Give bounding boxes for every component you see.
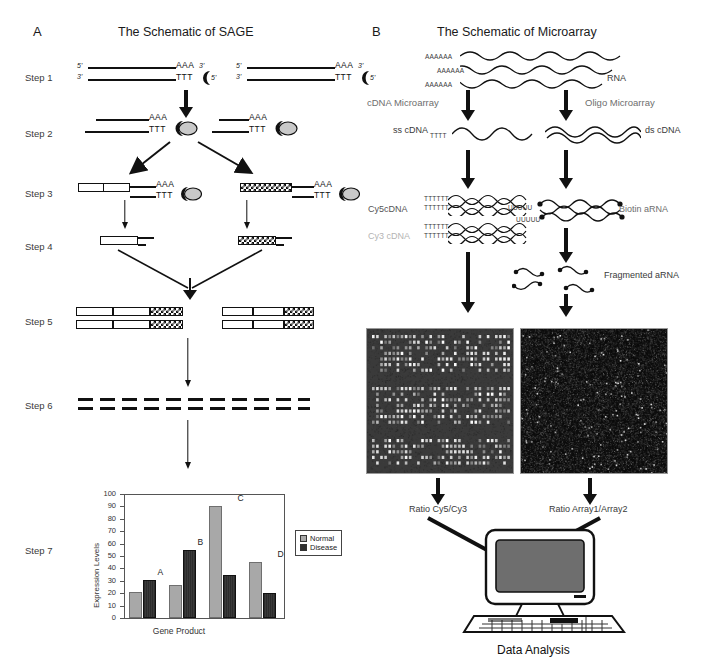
- arrow-step5-to-step6: [180, 338, 196, 390]
- step1-right-polyA: AAA: [335, 60, 353, 70]
- chart-y-tick-label: 80: [100, 515, 116, 523]
- step3-right-polyT: TTT: [314, 190, 331, 200]
- step-6-label: Step 6: [25, 400, 52, 411]
- chart-y-tick-label: 70: [100, 527, 116, 535]
- step3-left-tagbox-divider: [103, 183, 104, 192]
- ds-cdna-strand-icon: [545, 118, 641, 144]
- chart-y-tick: [120, 606, 124, 607]
- step1-left-5prime-top: 5': [77, 62, 82, 69]
- expression-bar-chart: Expression Levels 0102030405060708090100…: [84, 486, 344, 636]
- step-2-label: Step 2: [25, 128, 52, 139]
- chart-y-tick: [120, 593, 124, 594]
- step6-dashed-line-bottom: [78, 407, 310, 410]
- step1-left-bottom-strand: [88, 79, 176, 81]
- chart-bar-c-normal: [209, 506, 222, 618]
- step4-right-overhang-top: [276, 237, 292, 239]
- panel-a-letter: A: [33, 24, 42, 39]
- step5-right-row1-box3: [284, 307, 314, 316]
- step1-left-polyT: TTT: [176, 72, 193, 82]
- chart-y-tick-label: 10: [100, 602, 116, 610]
- arrow-ds-cdna-to-biotin-arna: [556, 150, 576, 190]
- step5-left-row1-box3: [150, 307, 183, 316]
- step5-left-row2-box2: [113, 320, 150, 329]
- step3-left-top-strand: [130, 186, 156, 188]
- step4-left-overhang-bottom: [138, 244, 146, 246]
- step2-left-polyT: TTT: [149, 124, 166, 134]
- microarray-image-left: [366, 328, 514, 474]
- legend-swatch-normal: [300, 535, 307, 542]
- step3-right-bead-icon: [334, 186, 360, 202]
- arrow-step4-merge: [110, 248, 290, 300]
- step2-right-polyA: AAA: [249, 112, 267, 122]
- step3-left-bead-icon: [176, 186, 202, 202]
- step3-left-polyT: TTT: [156, 190, 173, 200]
- chart-y-tick: [120, 581, 124, 582]
- chart-y-tick: [120, 519, 124, 520]
- step1-left-3prime-bot: 3': [77, 73, 82, 80]
- rna-polyA-3: AAAAAA: [425, 82, 452, 89]
- ds-cdna-label: ds cDNA: [645, 126, 681, 135]
- chart-y-tick-label: 30: [100, 577, 116, 585]
- panel-b-title: The Schematic of Microarray: [437, 25, 597, 39]
- step5-left-row2-box3: [150, 320, 183, 329]
- microarray-image-right: [520, 328, 668, 474]
- ss-cdna-label: ss cDNA: [393, 126, 428, 135]
- chart-bar-d-disease: [263, 593, 276, 618]
- oligo-microarray-label: Oligo Microarray: [585, 98, 655, 108]
- step2-left-polyA: AAA: [149, 112, 167, 122]
- cy5-cdna-strands-icon: [448, 190, 528, 216]
- biotin-uuuuu-1: UUUUU: [508, 205, 532, 212]
- chart-y-tick: [120, 531, 124, 532]
- step5-right-row2-box3: [284, 320, 314, 329]
- step1-left-bead-icon: [198, 70, 212, 86]
- chart-group-label-b: B: [198, 537, 204, 547]
- step5-right-row2-box1: [222, 320, 253, 329]
- chart-bar-a-disease: [143, 580, 156, 618]
- chart-bar-a-normal: [129, 592, 142, 618]
- step1-left-3prime-top: 3': [199, 62, 204, 69]
- step1-right-5prime-bot: 5': [370, 74, 375, 81]
- chart-y-axis: [124, 494, 125, 619]
- data-analysis-label: Data Analysis: [497, 643, 570, 657]
- step3-left-polyA: AAA: [156, 179, 174, 189]
- legend-item-disease: Disease: [300, 544, 337, 552]
- chart-y-tick-label: 90: [100, 502, 116, 510]
- step1-right-5prime-top: 5': [236, 62, 241, 69]
- chart-bar-b-disease: [183, 550, 196, 618]
- step5-left-row1-box1: [76, 307, 113, 316]
- chart-group-label-a: A: [158, 567, 164, 577]
- step4-left-tagbox: [100, 236, 138, 245]
- step1-right-3prime-bot: 3': [236, 73, 241, 80]
- chart-bar-c-disease: [223, 575, 236, 618]
- chart-group-label-d: D: [278, 549, 284, 559]
- chart-x-axis: [124, 618, 285, 619]
- chart-right-border: [284, 494, 285, 619]
- step3-left-bottom-strand: [130, 196, 156, 198]
- ss-cdna-tttt: TTTT: [430, 133, 447, 140]
- chart-y-tick-label: 40: [100, 564, 116, 572]
- step2-left-bead-icon: [170, 120, 198, 137]
- chart-y-tick-label: 60: [100, 540, 116, 548]
- cy3-tttt-1: TTTTTT: [424, 224, 449, 231]
- biotin-arna-label: Biotin aRNA: [619, 205, 668, 214]
- arrow-cy-to-array1: [458, 252, 478, 314]
- step2-right-bead-icon: [270, 120, 298, 137]
- chart-y-tick-label: 50: [100, 552, 116, 560]
- chart-group-label-c: C: [238, 493, 244, 503]
- figure-canvas: A The Schematic of SAGE Step 1 5' AAA 3'…: [0, 0, 702, 671]
- arrow-fragmented-to-array2: [556, 294, 576, 318]
- arrow-step1-to-step2: [176, 90, 196, 118]
- step-3-label: Step 3: [25, 188, 52, 199]
- rna-polyA-1: AAAAAA: [425, 54, 452, 61]
- step1-right-polyT: TTT: [335, 72, 352, 82]
- panel-b-letter: B: [372, 24, 381, 39]
- chart-y-tick: [120, 618, 124, 619]
- step-1-label: Step 1: [25, 72, 52, 83]
- step2-left-bottom-strand: [85, 131, 149, 133]
- cy3-cdna-label: Cy3 cDNA: [368, 232, 410, 241]
- step4-right-overhang-bottom: [276, 244, 284, 246]
- step-7-label: Step 7: [25, 545, 52, 556]
- legend-label-normal: Normal: [310, 535, 334, 543]
- arrow-array1-to-ratio: [428, 478, 448, 506]
- chart-y-tick: [120, 544, 124, 545]
